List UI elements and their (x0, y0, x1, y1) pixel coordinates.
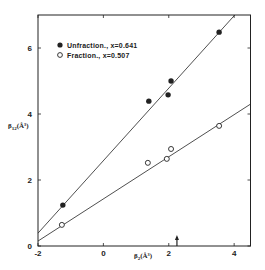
legend-filled-circle-icon (57, 42, 62, 47)
open-data-point (59, 222, 64, 227)
open-data-point (169, 146, 174, 151)
legend: Unfraction., x=0.641 Fraction., x=0.507 (57, 42, 137, 60)
x-tick-label: 4 (232, 249, 237, 258)
y-tick-label: 6 (28, 44, 33, 53)
open-data-point (164, 156, 169, 161)
open-data-point (217, 123, 222, 128)
scatter-chart: -20240246 Unfraction., x=0.641 Fraction.… (0, 0, 265, 270)
filled-data-point (216, 29, 221, 34)
y-tick-label: 2 (28, 176, 33, 185)
open-data-point (145, 160, 150, 165)
svg-text:β12(Å³): β12(Å³) (8, 122, 29, 131)
filled-data-point (165, 92, 170, 97)
legend-label-unfraction: Unfraction., x=0.641 (67, 42, 137, 50)
x-tick-label: 0 (101, 249, 106, 258)
x-axis-label: β2(Å³) (134, 252, 153, 261)
legend-label-fraction: Fraction., x=0.507 (67, 52, 130, 60)
arrow-up-icon (175, 235, 179, 246)
filled-data-point (60, 202, 65, 207)
svg-text:β2(Å³): β2(Å³) (134, 252, 153, 261)
data-points (59, 29, 221, 227)
tick-marks (38, 15, 251, 246)
plot-frame (38, 15, 251, 246)
x-tick-label: 2 (167, 249, 172, 258)
legend-open-circle-icon (58, 53, 63, 58)
y-axis-label: β12(Å³) (8, 122, 29, 131)
x-tick-label: -2 (34, 249, 42, 258)
y-tick-label: 4 (28, 110, 33, 119)
filled-data-point (168, 78, 173, 83)
filled-data-point (146, 98, 151, 103)
tick-labels: -20240246 (28, 44, 237, 258)
y-tick-label: 0 (28, 242, 33, 251)
